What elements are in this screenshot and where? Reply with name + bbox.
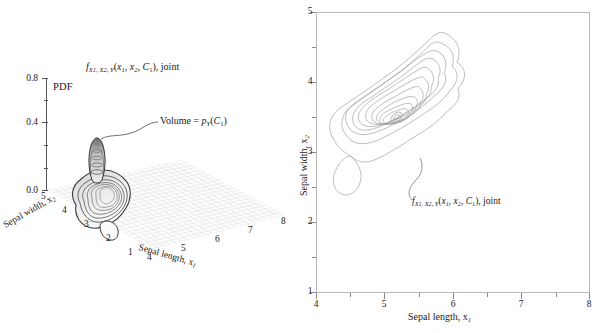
- density-surface: [73, 138, 131, 240]
- y3d-tick-label: 4: [62, 206, 67, 216]
- x-axis-minor-tick: [487, 293, 488, 297]
- y-axis-tick-label: 4: [300, 76, 320, 86]
- z-axis-tick-label: 0.4: [14, 117, 38, 127]
- y-axis-minor-tick: [312, 47, 316, 48]
- x2-axis-name: Sepal width, x2: [2, 193, 57, 231]
- contour-plot-frame: [316, 12, 590, 293]
- right-2d-panel: 5 4 3 2 1 4 5 6 7 8 Sepal width, x2 Sepa…: [300, 0, 603, 333]
- surface-plot-canvas: [0, 0, 300, 333]
- z-axis-minor-tick: [44, 100, 48, 101]
- z-axis-line: [46, 78, 47, 190]
- pdf-axis-label: PDF: [53, 82, 73, 93]
- volume-annotation: Volume = pY(C1): [160, 116, 227, 127]
- y-axis-minor-tick: [312, 257, 316, 258]
- x3d-tick-label: 6: [215, 235, 220, 245]
- x-axis-tick-label: 6: [443, 299, 463, 309]
- y3d-tick-label: 3: [84, 220, 89, 230]
- x-axis-tick-label: 4: [306, 299, 326, 309]
- x-axis-minor-tick: [350, 293, 351, 297]
- x-axis-minor-tick: [419, 293, 420, 297]
- z-axis-tick: [42, 122, 48, 123]
- y-axis-name: Sepal width, x2: [298, 135, 310, 196]
- contour-lines: [330, 32, 465, 195]
- x-axis-name: Sepal length, x1: [408, 311, 471, 323]
- y-axis-minor-tick: [312, 187, 316, 188]
- z-axis-minor-tick: [44, 145, 48, 146]
- left-3d-panel: fX1, X2, Y(x1, x2, C1), joint: [0, 0, 300, 333]
- left-panel-title: fX1, X2, Y(x1, x2, C1), joint: [86, 62, 179, 73]
- z-axis-tick-label: 0.8: [14, 73, 38, 83]
- y-axis-tick-label: 2: [300, 216, 320, 226]
- x-axis-minor-tick: [556, 293, 557, 297]
- x-axis-tick-label: 5: [374, 299, 394, 309]
- figure-root: fX1, X2, Y(x1, x2, C1), joint: [0, 0, 603, 333]
- y-axis-tick-label: 1: [300, 286, 320, 296]
- x-axis-tick-label: 8: [579, 299, 599, 309]
- contour-annotation-label: fX1, X2, Y(x1, x2, C1), joint: [412, 196, 501, 207]
- base-plane: [48, 160, 285, 249]
- contour-plot-canvas: [317, 13, 589, 292]
- x3d-tick-label: 7: [248, 226, 253, 236]
- y-axis-tick-label: 5: [300, 6, 320, 16]
- volume-leader-line: [101, 122, 158, 139]
- x3d-tick-label: 8: [281, 217, 286, 227]
- y-axis-minor-tick: [312, 117, 316, 118]
- y3d-tick-label: 1: [128, 248, 133, 258]
- x3d-tick-label: 5: [181, 244, 186, 254]
- z-axis-tick: [42, 78, 48, 79]
- z-axis-minor-tick: [44, 168, 48, 169]
- base-plane-mesh: [48, 160, 285, 249]
- z-axis-tick-label: 0.0: [14, 185, 38, 195]
- x-axis-tick-label: 7: [511, 299, 531, 309]
- y3d-tick-label: 2: [106, 234, 111, 244]
